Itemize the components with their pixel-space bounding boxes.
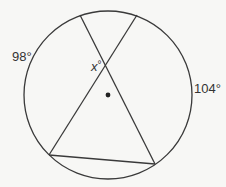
center-dot: [106, 93, 111, 98]
degree-symbol: °: [98, 59, 102, 70]
chord-top-right-to-bottom-left: [49, 15, 137, 155]
arc-label-98: 98°: [12, 50, 32, 63]
geometry-figure: [0, 0, 226, 187]
angle-label-x: x°: [91, 60, 102, 73]
chord-top-left-to-bottom-right: [80, 15, 155, 164]
chord-bottom: [49, 155, 155, 164]
arc-label-104: 104°: [194, 82, 221, 95]
